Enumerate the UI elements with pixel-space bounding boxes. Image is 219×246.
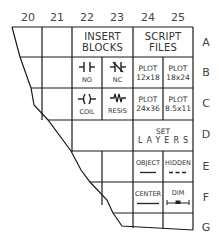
- column-number-23: 23: [105, 12, 129, 23]
- plot-8-5x11-button[interactable]: PLOT 8.5x11: [163, 88, 193, 120]
- row-letter-f: F: [199, 192, 213, 203]
- plot-18x24-line1: PLOT: [169, 64, 188, 73]
- plot-8-5x11-line2: 8.5x11: [165, 104, 191, 113]
- empty-cell-21b[interactable]: [42, 57, 72, 88]
- dimension-icon: [166, 199, 190, 206]
- continuous-line-icon: [139, 170, 157, 175]
- coil-button[interactable]: COIL: [72, 88, 102, 120]
- empty-cell-24g[interactable]: [133, 213, 163, 228]
- set-layers-button[interactable]: SET LAYERS: [133, 120, 193, 151]
- nc-contact-button[interactable]: NC: [102, 57, 133, 88]
- insert-blocks-header: INSERT BLOCKS: [72, 27, 133, 57]
- plot-24x36-line2: 24x36: [136, 104, 160, 113]
- script-files-header: SCRIPT FILES: [133, 27, 193, 57]
- dim-label: DIM: [172, 189, 185, 197]
- empty-cell-25g[interactable]: [163, 213, 193, 229]
- column-number-20: 20: [16, 12, 40, 23]
- empty-cell-23d[interactable]: [102, 120, 133, 151]
- resis-label: RESIS: [108, 107, 127, 115]
- plot-12x18-line2: 12x18: [136, 73, 160, 82]
- center-line-icon: [136, 201, 160, 206]
- set-layers-line2: LAYERS: [134, 136, 192, 145]
- plot-12x18-line1: PLOT: [139, 64, 158, 73]
- empty-cell-23e[interactable]: [102, 151, 133, 182]
- normally-closed-contact-icon: [109, 61, 127, 73]
- plot-18x24-button[interactable]: PLOT 18x24: [163, 57, 193, 88]
- no-label: NO: [82, 76, 92, 84]
- dashed-line-icon: [168, 170, 188, 175]
- column-number-24: 24: [136, 12, 160, 23]
- row-letter-g: G: [199, 222, 213, 233]
- empty-cell-21c[interactable]: [42, 88, 72, 120]
- row-letter-b: B: [199, 67, 213, 78]
- row-letter-c: C: [199, 98, 213, 109]
- no-contact-button[interactable]: NO: [72, 57, 102, 88]
- column-number-22: 22: [75, 12, 99, 23]
- center-linetype-button[interactable]: CENTER: [133, 182, 163, 213]
- resistor-icon: [109, 93, 127, 103]
- object-label: OBJECT: [136, 159, 160, 167]
- coil-icon: [77, 93, 97, 105]
- plot-24x36-line1: PLOT: [139, 95, 158, 104]
- resistor-button[interactable]: RESIS: [102, 88, 133, 120]
- script-files-line2: FILES: [149, 42, 177, 53]
- empty-cell-22d[interactable]: [72, 120, 102, 151]
- empty-cell-21a[interactable]: [42, 27, 72, 57]
- object-linetype-button[interactable]: OBJECT: [133, 151, 163, 182]
- plot-12x18-button[interactable]: PLOT 12x18: [133, 57, 163, 88]
- normally-open-contact-icon: [78, 61, 96, 73]
- set-layers-line1: SET: [156, 127, 170, 136]
- column-number-21: 21: [45, 12, 69, 23]
- row-letter-d: D: [199, 129, 213, 140]
- column-number-25: 25: [166, 12, 190, 23]
- plot-24x36-button[interactable]: PLOT 24x36: [133, 88, 163, 120]
- plot-18x24-line2: 18x24: [166, 73, 190, 82]
- row-letter-e: E: [199, 161, 213, 172]
- insert-blocks-line2: BLOCKS: [82, 42, 123, 53]
- dim-button[interactable]: DIM: [163, 182, 193, 213]
- nc-label: NC: [113, 76, 122, 84]
- coil-label: COIL: [79, 108, 94, 116]
- row-letter-a: A: [199, 37, 213, 48]
- insert-blocks-line1: INSERT: [84, 31, 121, 42]
- plot-8-5x11-line1: PLOT: [169, 95, 188, 104]
- script-files-line1: SCRIPT: [145, 31, 182, 42]
- hidden-label: HIDDEN: [165, 159, 191, 167]
- hidden-linetype-button[interactable]: HIDDEN: [163, 151, 193, 182]
- center-label: CENTER: [135, 190, 161, 198]
